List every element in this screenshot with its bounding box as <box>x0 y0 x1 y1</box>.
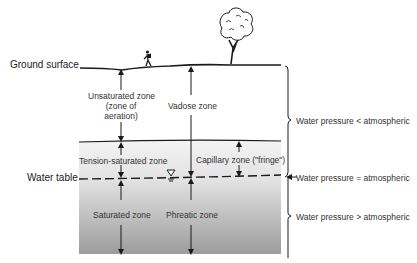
capillary-zone-label: Capillary zone ("fringe") <box>196 155 285 165</box>
pressure-below-label: Water pressure > atmospheric <box>296 212 410 222</box>
unsaturated-zone-label: Unsaturated zone (zone of aeration) <box>88 91 154 121</box>
unsaturated-zone-line-2: (zone of <box>88 101 154 111</box>
phreatic-zone-label: Phreatic zone <box>166 210 218 220</box>
tree-icon <box>220 8 253 64</box>
hiker-icon <box>144 50 151 66</box>
unsaturated-zone-line-1: Unsaturated zone <box>88 91 154 101</box>
vadose-zone-label: Vadose zone <box>168 101 217 111</box>
water-table-label: Water table <box>27 173 78 183</box>
brace-above <box>285 66 291 177</box>
pressure-above-label: Water pressure < atmospheric <box>296 116 410 126</box>
ground-surface-line <box>80 65 281 70</box>
brace-below <box>288 178 291 258</box>
ground-surface-label: Ground surface <box>10 60 79 70</box>
unsaturated-zone-line-3: aeration) <box>88 111 154 121</box>
tension-saturated-zone-label: Tension-saturated zone <box>79 156 167 166</box>
pressure-at-label: Water pressure = atmospheric <box>296 173 410 183</box>
saturated-zone-label: Saturated zone <box>93 210 151 220</box>
groundwater-diagram <box>0 0 417 263</box>
